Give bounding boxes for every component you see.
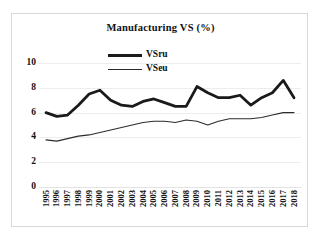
legend-item-vsru: VSru — [108, 48, 218, 62]
x-axis-labels: 1995199619971998199920002001200220032004… — [39, 190, 301, 226]
series-line-vseu — [46, 113, 294, 142]
x-axis-tick-2013: 2013 — [235, 190, 246, 207]
chart-title: Manufacturing VS (%) — [12, 22, 309, 33]
x-axis-tick-2000: 2000 — [94, 190, 105, 207]
x-axis-tick-1997: 1997 — [62, 190, 73, 207]
x-axis-tick-2011: 2011 — [213, 190, 224, 207]
x-axis-tick-2014: 2014 — [245, 190, 256, 207]
x-axis-tick-2005: 2005 — [148, 190, 159, 207]
x-axis-tick-2001: 2001 — [105, 190, 116, 207]
x-axis-tick-2017: 2017 — [278, 190, 289, 207]
y-axis-tick-10: 10 — [14, 58, 36, 68]
x-axis-tick-1995: 1995 — [41, 190, 52, 207]
x-axis-tick-1996: 1996 — [51, 190, 62, 207]
plot-area — [39, 63, 301, 187]
x-axis-tick-2015: 2015 — [256, 190, 267, 207]
x-axis-tick-1999: 1999 — [84, 190, 95, 207]
x-axis-tick-2006: 2006 — [159, 190, 170, 207]
x-axis-tick-2016: 2016 — [267, 190, 278, 207]
legend-line-icon-vsru — [108, 54, 142, 57]
y-axis-tick-0: 0 — [14, 182, 36, 192]
x-axis-tick-2009: 2009 — [191, 190, 202, 207]
y-axis-tick-2: 2 — [14, 157, 36, 167]
x-axis-tick-2010: 2010 — [202, 190, 213, 207]
series-lines — [39, 63, 301, 187]
x-axis-tick-2003: 2003 — [127, 190, 138, 207]
x-axis-tick-2018: 2018 — [289, 190, 300, 207]
chart-card: Manufacturing VS (%) VSru VSeu 199519961… — [11, 13, 308, 227]
x-axis-tick-1998: 1998 — [73, 190, 84, 207]
x-axis-line — [39, 187, 301, 188]
legend-label-vsru: VSru — [146, 50, 168, 60]
x-axis-tick-2012: 2012 — [224, 190, 235, 207]
x-axis-tick-2002: 2002 — [116, 190, 127, 207]
y-axis-tick-8: 8 — [14, 83, 36, 93]
y-axis-tick-4: 4 — [14, 132, 36, 142]
y-axis-tick-6: 6 — [14, 108, 36, 118]
series-line-vsru — [46, 80, 294, 116]
x-axis-tick-2004: 2004 — [138, 190, 149, 207]
x-axis-tick-2007: 2007 — [170, 190, 181, 207]
